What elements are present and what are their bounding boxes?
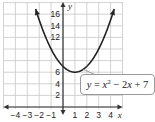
x-tick-label: 4 (108, 110, 113, 120)
x-tick-label: 2 (84, 110, 89, 120)
x-tick-label: −4 (11, 110, 21, 120)
y-tick-label: 6 (55, 67, 60, 77)
x-axis-left-arrow-icon (4, 105, 9, 110)
x-tick-label: −2 (34, 110, 44, 120)
x-tick-label: 1 (73, 110, 78, 120)
y-tick-label: 4 (55, 79, 60, 89)
y-tick-label: 14 (51, 21, 61, 31)
eq-part: − 2 (111, 79, 127, 90)
y-tick-label: 12 (51, 32, 61, 42)
y-tick-label: 2 (55, 90, 60, 100)
eq-equals: = (91, 79, 102, 90)
parabola-graph: xy−4−3−2−11234246121416 (0, 0, 155, 122)
x-tick-label: 3 (96, 110, 101, 120)
y-tick-label: 16 (51, 9, 61, 19)
equation-label: y = x2 − 2x + 7 (80, 74, 155, 95)
y-axis-label: y (67, 1, 72, 11)
x-tick-label: −3 (22, 110, 32, 120)
y-axis-down-arrow-icon (61, 110, 66, 115)
eq-constant: + 7 (132, 79, 148, 90)
x-axis-right-arrow-icon (118, 105, 123, 110)
x-axis-label: x (117, 110, 122, 120)
x-tick-label: −1 (46, 110, 56, 120)
